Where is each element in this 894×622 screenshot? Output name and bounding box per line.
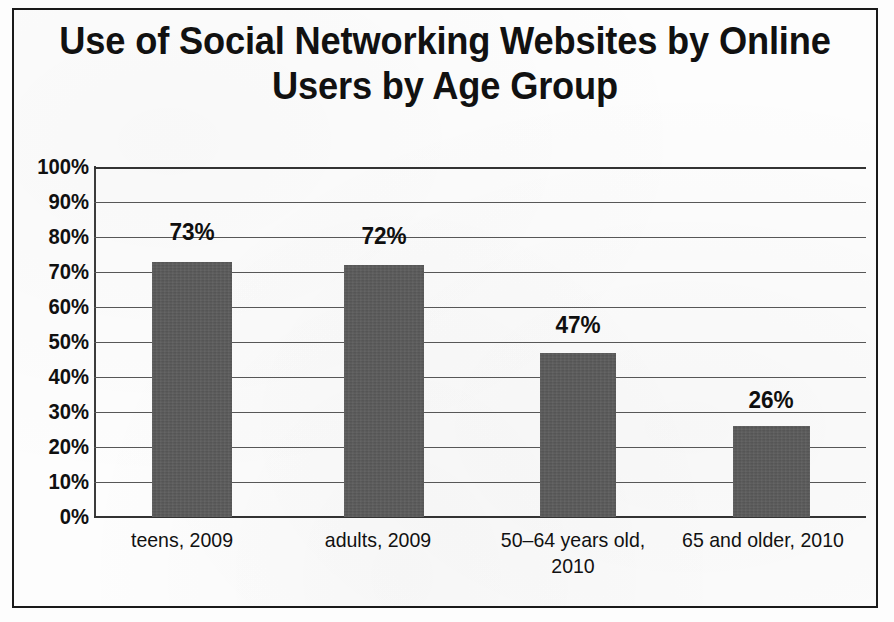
value-label-adults-2009: 72% — [337, 222, 431, 250]
y-tick-30: 30% — [15, 401, 89, 423]
y-tick-80: 80% — [15, 226, 89, 248]
gridline-90 — [94, 202, 866, 203]
y-tick-40: 40% — [15, 366, 89, 388]
y-tick-90: 90% — [15, 191, 89, 213]
y-tick-0: 0% — [15, 506, 89, 528]
category-label-65-and-older-2010: 65 and older, 2010 — [675, 527, 852, 553]
category-label-teens-2009: teens, 2009 — [98, 527, 265, 553]
gridline-100 — [94, 167, 866, 169]
value-label-50-64-years-2010: 47% — [531, 311, 625, 339]
bar-50-64-years-2010[interactable] — [540, 353, 616, 518]
bar-adults-2009[interactable] — [344, 265, 424, 517]
y-tick-70: 70% — [15, 261, 89, 283]
y-tick-20: 20% — [15, 436, 89, 458]
value-label-65-and-older-2010: 26% — [724, 386, 818, 414]
figure-canvas: Use of Social Networking Websites by Onl… — [0, 0, 894, 622]
chart-title: Use of Social Networking Websites by Onl… — [50, 18, 841, 108]
y-tick-60: 60% — [15, 296, 89, 318]
y-tick-50: 50% — [15, 331, 89, 353]
value-label-teens-2009: 73% — [145, 218, 239, 246]
bar-65-and-older-2010[interactable] — [733, 426, 810, 517]
category-label-50-64-years-2010: 50–64 years old, 2010 — [485, 527, 662, 578]
y-axis-tick-labels: 100% 90% 80% 70% 60% 50% 40% 30% 20% 10%… — [4, 167, 89, 517]
y-tick-100: 100% — [15, 156, 89, 178]
category-label-adults-2009: adults, 2009 — [294, 527, 461, 553]
bar-teens-2009[interactable] — [152, 262, 232, 518]
y-tick-10: 10% — [15, 471, 89, 493]
